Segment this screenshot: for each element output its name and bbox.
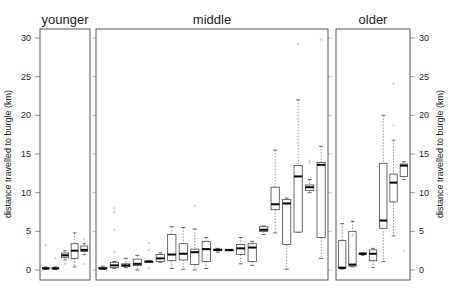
y-tick-label-left: 20 — [21, 110, 31, 120]
y-tick-label-left: 25 — [21, 72, 31, 82]
axes: 005510101515202025253030 — [21, 33, 429, 275]
box-middle-4 — [133, 255, 141, 270]
box-middle-7 — [168, 227, 176, 269]
box-middle-3 — [122, 258, 130, 267]
boxplot-chart: 005510101515202025253030 younger middle … — [0, 0, 451, 291]
box-younger-3 — [62, 251, 69, 265]
y-axis-label-right: distance travelled to burgle (km) — [435, 90, 445, 218]
box-older-6 — [390, 83, 397, 236]
box-middle-1 — [99, 266, 107, 269]
box-older-5 — [380, 115, 387, 261]
box-older-7 — [400, 162, 407, 252]
box-middle-19 — [305, 160, 313, 193]
box-middle-13 — [237, 238, 245, 264]
box-older-4 — [369, 248, 376, 267]
panel-title-older: older — [359, 12, 389, 27]
box-middle-17 — [283, 198, 291, 269]
box-younger-1 — [42, 244, 49, 269]
y-tick-label-right: 10 — [419, 188, 429, 198]
box-middle-15 — [260, 226, 268, 235]
box-middle-14 — [248, 241, 256, 265]
box-middle-10 — [202, 238, 210, 269]
y-tick-label-left: 10 — [21, 188, 31, 198]
box-younger-2 — [52, 258, 59, 270]
y-tick-label-right: 5 — [419, 226, 424, 236]
box-middle-5 — [145, 242, 153, 269]
box-middle-9 — [191, 205, 199, 270]
box-younger-5 — [81, 238, 88, 264]
box-middle-11 — [214, 248, 222, 252]
y-tick-label-right: 25 — [419, 72, 429, 82]
y-tick-label-left: 0 — [26, 265, 31, 275]
box-middle-18 — [294, 43, 302, 232]
y-tick-label-right: 15 — [419, 149, 429, 159]
box-older-2 — [349, 221, 356, 267]
y-axis-label-left: distance travelled to burgle (km) — [3, 90, 13, 218]
panel-title-middle: middle — [193, 12, 231, 27]
box-middle-6 — [156, 253, 164, 262]
y-tick-label-right: 30 — [419, 33, 429, 43]
y-tick-label-right: 0 — [419, 265, 424, 275]
box-middle-16 — [271, 150, 279, 233]
box-younger-4 — [71, 233, 78, 267]
y-tick-label-left: 30 — [21, 33, 31, 43]
box-older-3 — [359, 253, 366, 255]
panel-frame-older — [336, 29, 410, 280]
panels — [40, 29, 410, 280]
box-middle-20 — [317, 39, 325, 259]
panel-frame-younger — [40, 29, 90, 280]
box-older-1 — [338, 224, 345, 270]
box-middle-12 — [225, 250, 233, 251]
panel-frame-middle — [96, 29, 328, 280]
box-middle-2 — [110, 207, 118, 268]
y-tick-label-right: 20 — [419, 110, 429, 120]
y-tick-label-left: 5 — [26, 226, 31, 236]
y-tick-label-left: 15 — [21, 149, 31, 159]
box-middle-8 — [179, 227, 187, 269]
panel-title-younger: younger — [42, 12, 90, 27]
